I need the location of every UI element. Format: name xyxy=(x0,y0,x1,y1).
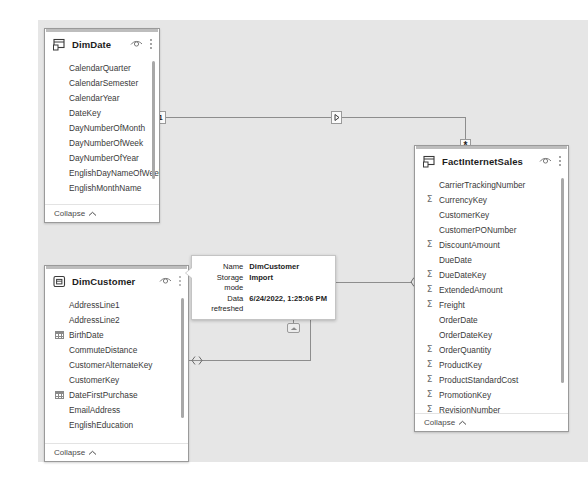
field-row[interactable]: AddressLine1 xyxy=(45,297,188,312)
relationship-line-dimdate-factinternetsales[interactable] xyxy=(160,117,465,118)
table-header-dimdate[interactable]: DimDate xyxy=(45,32,159,56)
field-row[interactable]: CarrierTrackingNumber xyxy=(415,177,568,192)
field-list-factinternetsales[interactable]: CarrierTrackingNumberΣCurrencyKeyCustome… xyxy=(415,173,568,413)
calendar-icon xyxy=(54,329,65,340)
field-row[interactable]: OrderDateKey xyxy=(415,327,568,342)
relationship-direction-marker-1[interactable] xyxy=(331,111,342,124)
field-list-dimcustomer[interactable]: AddressLine1AddressLine2BirthDateCommute… xyxy=(45,293,188,443)
tooltip-table: NameDimCustomerStorage modeImportData re… xyxy=(198,261,327,314)
field-row[interactable]: OrderDate xyxy=(415,312,568,327)
collapse-button-dimcustomer[interactable]: Collapse xyxy=(45,443,188,461)
sigma-icon: Σ xyxy=(424,374,435,385)
more-options-icon[interactable] xyxy=(149,38,153,50)
vertical-scrollbar-factinternetsales[interactable] xyxy=(561,178,564,408)
field-label: CommuteDistance xyxy=(69,345,137,355)
collapse-button-factinternetsales[interactable]: Collapse xyxy=(415,413,568,431)
vertical-scrollbar-dimcustomer[interactable] xyxy=(181,298,184,438)
tooltip-value: DimCustomer xyxy=(249,261,327,272)
model-diagram-canvas[interactable]: 1 * 1 * DimDate xyxy=(38,20,588,462)
field-label: CustomerKey xyxy=(439,210,489,220)
table-header-dimcustomer[interactable]: DimCustomer xyxy=(45,269,188,293)
field-row[interactable]: EmailAddress xyxy=(45,402,188,417)
field-label: CustomerPONumber xyxy=(439,225,516,235)
collapse-button-dimdate[interactable]: Collapse xyxy=(45,204,159,222)
field-label: DayNumberOfYear xyxy=(69,153,139,163)
tooltip-anchor-knob[interactable] xyxy=(287,323,300,333)
sigma-icon: Σ xyxy=(424,239,435,250)
field-label: OrderDateKey xyxy=(439,330,492,340)
table-card-dimcustomer[interactable]: DimCustomer AddressLine1AddressLine2Birt… xyxy=(44,265,189,462)
scrollbar-thumb[interactable] xyxy=(181,298,184,418)
field-glyph-none xyxy=(424,314,435,325)
sigma-icon: Σ xyxy=(424,194,435,205)
field-row[interactable]: ΣExtendedAmount xyxy=(415,282,568,297)
table-header-factinternetsales[interactable]: FactInternetSales xyxy=(415,149,568,173)
sigma-icon: Σ xyxy=(424,404,435,413)
field-row[interactable]: BirthDate xyxy=(45,327,188,342)
field-glyph-none xyxy=(424,254,435,265)
field-row[interactable]: ΣProductKey xyxy=(415,357,568,372)
eye-icon[interactable] xyxy=(539,156,552,166)
field-row[interactable]: ΣOrderQuantity xyxy=(415,342,568,357)
field-rows-factinternetsales: CarrierTrackingNumberΣCurrencyKeyCustome… xyxy=(415,177,568,413)
field-label: BirthDate xyxy=(69,330,104,340)
tooltip-rows: NameDimCustomerStorage modeImportData re… xyxy=(198,261,327,314)
tooltip-row: Storage modeImport xyxy=(198,272,327,293)
field-row[interactable]: DueDate xyxy=(415,252,568,267)
field-row[interactable]: AddressLine2 xyxy=(45,312,188,327)
relationship-line-dimcustomer-horizontal[interactable] xyxy=(189,360,311,361)
field-row[interactable]: DayNumberOfYear xyxy=(45,150,159,165)
table-card-factinternetsales[interactable]: FactInternetSales CarrierTrackingNumberΣ… xyxy=(414,145,569,432)
field-row[interactable]: DayNumberOfMonth xyxy=(45,120,159,135)
field-row[interactable]: CalendarYear xyxy=(45,90,159,105)
field-row[interactable]: ΣFreight xyxy=(415,297,568,312)
crossfilter-both-icon-dimcustomer[interactable] xyxy=(190,355,204,366)
field-glyph-none xyxy=(54,77,65,88)
field-rows-dimcustomer: AddressLine1AddressLine2BirthDateCommute… xyxy=(45,297,188,432)
more-options-icon[interactable] xyxy=(558,155,562,167)
tooltip-key: Name xyxy=(198,261,249,272)
field-row[interactable]: ΣRevisionNumber xyxy=(415,402,568,413)
field-row[interactable]: ΣDueDateKey xyxy=(415,267,568,282)
field-label: CalendarSemester xyxy=(69,78,138,88)
eye-icon[interactable] xyxy=(130,39,143,49)
field-glyph-none xyxy=(54,92,65,103)
field-label: CalendarQuarter xyxy=(69,63,131,73)
scrollbar-thumb[interactable] xyxy=(152,61,155,179)
tooltip-tail xyxy=(186,268,192,278)
field-row[interactable]: ΣCurrencyKey xyxy=(415,192,568,207)
field-label: EnglishEducation xyxy=(69,420,133,430)
eye-icon[interactable] xyxy=(159,276,172,286)
field-label: EnglishDayNameOfWeek xyxy=(69,168,159,178)
field-row[interactable]: CustomerPONumber xyxy=(415,222,568,237)
field-row[interactable]: CustomerKey xyxy=(415,207,568,222)
chevron-up-icon xyxy=(88,211,97,217)
field-label: OrderDate xyxy=(439,315,478,325)
field-row[interactable]: EnglishEducation xyxy=(45,417,188,432)
field-row[interactable]: CustomerKey xyxy=(45,372,188,387)
field-label: CalendarYear xyxy=(69,93,119,103)
field-row[interactable]: ΣPromotionKey xyxy=(415,387,568,402)
field-glyph-none xyxy=(54,404,65,415)
tooltip-key: Storage mode xyxy=(198,272,249,293)
field-row[interactable]: DateKey xyxy=(45,105,159,120)
field-row[interactable]: ΣProductStandardCost xyxy=(415,372,568,387)
table-date-icon xyxy=(53,38,66,51)
vertical-scrollbar-dimdate[interactable] xyxy=(152,61,155,199)
field-label: Freight xyxy=(439,300,465,310)
field-row[interactable]: CalendarSemester xyxy=(45,75,159,90)
table-card-dimdate[interactable]: DimDate CalendarQuarterCalendarSemesterC… xyxy=(44,28,160,223)
more-options-icon[interactable] xyxy=(178,275,182,287)
field-row[interactable]: EnglishMonthName xyxy=(45,180,159,195)
field-glyph-none xyxy=(54,122,65,133)
field-row[interactable]: ΣDiscountAmount xyxy=(415,237,568,252)
field-list-dimdate[interactable]: CalendarQuarterCalendarSemesterCalendarY… xyxy=(45,56,159,204)
field-row[interactable]: EnglishDayNameOfWeek xyxy=(45,165,159,180)
field-row[interactable]: CommuteDistance xyxy=(45,342,188,357)
field-row[interactable]: DateFirstPurchase xyxy=(45,387,188,402)
scrollbar-thumb[interactable] xyxy=(561,178,564,383)
sigma-icon: Σ xyxy=(424,269,435,280)
field-row[interactable]: CustomerAlternateKey xyxy=(45,357,188,372)
field-row[interactable]: DayNumberOfWeek xyxy=(45,135,159,150)
field-row[interactable]: CalendarQuarter xyxy=(45,60,159,75)
